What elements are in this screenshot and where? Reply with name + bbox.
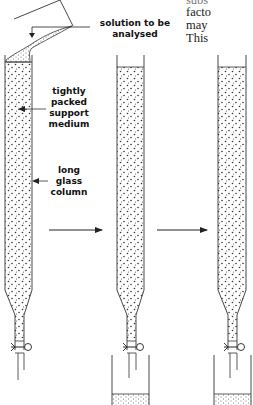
solution-arrow-icon (29, 33, 35, 38)
beaker-2 (112, 355, 149, 405)
beaker-3 (214, 355, 251, 405)
label-support-medium: tightly packed support medium (46, 86, 92, 130)
label-solution: solution to be analysed (90, 18, 180, 40)
label-solution-line-2: analysed (90, 29, 180, 40)
label-medium-line-2: packed (46, 97, 92, 108)
body-text-line-4: This (186, 32, 208, 45)
label-medium-line-4: medium (46, 119, 92, 130)
label-column-line-1: long (48, 165, 90, 176)
poured-solution (6, 26, 72, 62)
column-2 (117, 55, 144, 378)
label-medium-line-1: tightly (46, 86, 92, 97)
label-solution-line-1: solution to be (90, 18, 180, 29)
column-pointer-arrow-icon (32, 178, 39, 184)
column-1 (5, 55, 32, 380)
flask (14, 0, 73, 26)
column-3 (218, 55, 246, 378)
chromatography-diagram (0, 0, 253, 405)
label-column-line-2: glass (48, 176, 90, 187)
label-medium-line-3: support (46, 108, 92, 119)
label-glass-column: long glass column (48, 165, 90, 198)
label-column-line-3: column (48, 187, 90, 198)
